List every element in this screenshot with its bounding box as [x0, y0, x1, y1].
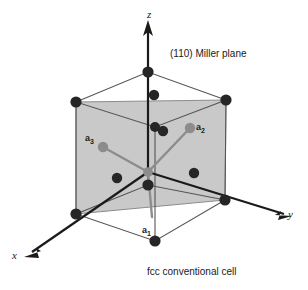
figure-caption: fcc conventional cell: [147, 267, 237, 277]
atom-corner: [70, 208, 81, 219]
miller-plane-caption: (110) Miller plane: [170, 49, 247, 59]
atom-face-center: [112, 173, 122, 183]
atom-corner: [149, 235, 160, 246]
fcc-crystal-figure: z y x a1 a2 a3 (110) Miller plane fcc co…: [0, 0, 308, 290]
vector-label-a1: a1: [142, 226, 151, 237]
atom-corner: [142, 66, 153, 77]
atom-body-center: [143, 167, 153, 177]
atom-vector-tip-a3: [98, 142, 108, 152]
vector-label-a3: a3: [85, 134, 94, 145]
atom-face-center: [149, 90, 159, 100]
vector-label-a2-index: 2: [201, 127, 205, 134]
atom-corner: [142, 179, 153, 190]
axis-label-y: y: [288, 209, 293, 220]
atom-corner: [70, 96, 81, 107]
atom-corner: [220, 94, 231, 105]
vector-label-a3-index: 3: [90, 138, 94, 145]
atom-face-center: [158, 126, 168, 136]
vector-label-a1-index: 1: [147, 230, 151, 237]
atom-corner: [219, 194, 230, 205]
axis-label-x: x: [12, 250, 17, 261]
atom-vector-tip-a2: [185, 123, 195, 133]
vector-label-a2: a2: [196, 123, 205, 134]
axis-x-arrowhead: [24, 248, 41, 258]
atom-face-center: [189, 168, 199, 178]
axis-label-z: z: [147, 9, 151, 20]
crystal-diagram-svg: [0, 0, 308, 290]
